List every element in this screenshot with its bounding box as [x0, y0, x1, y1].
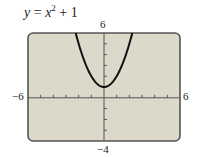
y-max-label: 6 [100, 18, 106, 30]
plot-area [0, 0, 197, 157]
x-max-label: 6 [183, 90, 189, 102]
x-min-label: −6 [12, 90, 24, 102]
y-min-label: −4 [97, 143, 109, 155]
